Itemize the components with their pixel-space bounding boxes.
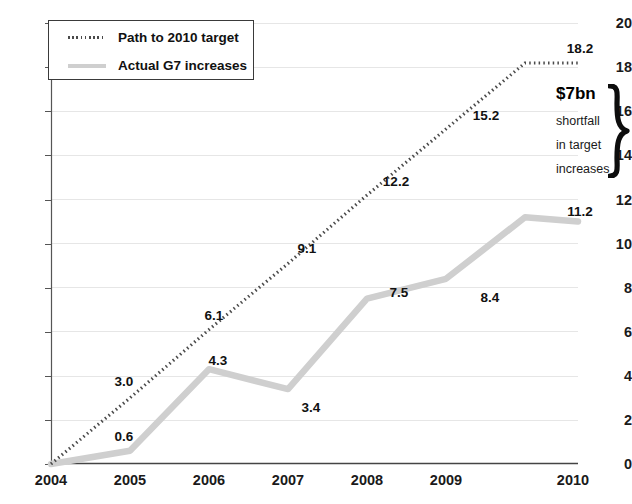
y-tick-label-0: 0	[624, 457, 632, 472]
y-tick-label-12: 12	[616, 193, 632, 208]
legend-label-actual: Actual G7 increases	[118, 58, 247, 73]
point-label-actual-2009: 8.4	[481, 290, 500, 305]
point-label-actual-2008: 7.5	[390, 285, 409, 300]
chart-title	[0, 0, 632, 2]
chart-container: 20 18 16 14 12 10 8 6 4 2 0 2004 2005 20…	[0, 0, 632, 504]
point-label-target-2005: 3.0	[115, 374, 134, 389]
y-tick-label-8: 8	[624, 281, 632, 296]
point-label-actual-2007: 3.4	[302, 400, 321, 415]
x-tick-label-2007: 2007	[272, 472, 304, 488]
legend-item-target[interactable]: Path to 2010 target	[49, 22, 253, 52]
x-tick-label-2008: 2008	[351, 472, 383, 488]
point-label-actual-2006: 4.3	[209, 353, 228, 368]
chart-legend: Path to 2010 target Actual G7 increases	[48, 20, 254, 80]
dotted-line-swatch-icon	[68, 32, 106, 42]
point-label-target-2006: 6.1	[205, 308, 224, 323]
point-label-target-2008: 12.2	[383, 174, 409, 189]
x-tick-label-2009: 2009	[430, 472, 462, 488]
point-label-target-2010: 18.2	[567, 41, 593, 56]
shortfall-line-3: increases	[556, 162, 610, 176]
x-tick-label-2010: 2010	[557, 472, 589, 488]
curly-brace-icon	[608, 84, 630, 178]
legend-label-target: Path to 2010 target	[118, 30, 239, 45]
solid-line-swatch-icon	[68, 60, 106, 70]
point-label-actual-2010: 11.2	[567, 204, 593, 219]
shortfall-amount: $7bn	[556, 84, 596, 104]
point-label-target-2009: 15.2	[473, 108, 499, 123]
y-tick-label-2: 2	[624, 413, 632, 428]
y-tick-label-10: 10	[616, 237, 632, 252]
point-label-actual-2005: 0.6	[115, 429, 134, 444]
y-tick-label-18: 18	[616, 60, 632, 75]
legend-item-actual[interactable]: Actual G7 increases	[49, 50, 253, 80]
y-tick-label-6: 6	[624, 325, 632, 340]
y-tick-label-20: 20	[616, 16, 632, 31]
x-tick-label-2006: 2006	[193, 472, 225, 488]
shortfall-line-1: shortfall	[556, 114, 600, 128]
point-label-target-2007: 9.1	[298, 241, 317, 256]
y-tick-label-4: 4	[624, 369, 632, 384]
x-tick-label-2004: 2004	[35, 472, 67, 488]
x-tick-label-2005: 2005	[114, 472, 146, 488]
shortfall-line-2: in target	[556, 138, 601, 152]
